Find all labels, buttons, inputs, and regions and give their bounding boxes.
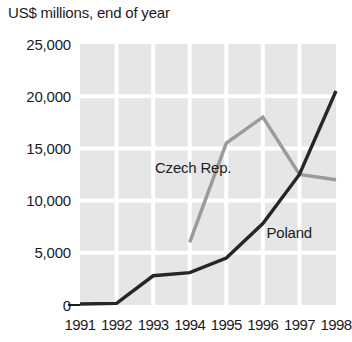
- x-axis-tick-labels: 19911992199319941995199619971998: [65, 316, 352, 333]
- line-chart-plot: 05,00010,00015,00020,00025,000 199119921…: [0, 0, 352, 342]
- y-axis-tick-label: 10,000: [26, 192, 71, 209]
- x-axis-tick-label: 1991: [65, 316, 96, 333]
- y-axis-tick-label: 25,000: [26, 36, 71, 53]
- y-axis-tick-label: 5,000: [34, 244, 71, 261]
- y-axis-tick-labels: 05,00010,00015,00020,00025,000: [26, 36, 71, 314]
- chart-container: US$ millions, end of year 05,00010,00015…: [0, 0, 352, 342]
- x-axis-tick-label: 1998: [321, 316, 352, 333]
- x-axis-tick-label: 1994: [174, 316, 205, 333]
- y-axis-tick-label: 15,000: [26, 140, 71, 157]
- x-axis-tick-label: 1996: [247, 316, 278, 333]
- x-axis-tick-label: 1997: [284, 316, 315, 333]
- x-axis-tick-label: 1995: [211, 316, 242, 333]
- series-label-poland: Poland: [267, 224, 313, 241]
- x-axis-tick-label: 1992: [101, 316, 132, 333]
- y-axis-tick-label: 20,000: [26, 88, 71, 105]
- series-label-czech-rep: Czech Rep.: [155, 159, 231, 176]
- x-axis-tick-label: 1993: [138, 316, 169, 333]
